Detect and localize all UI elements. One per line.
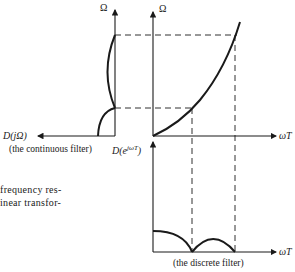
left-x-axis-label: D(jΩ) xyxy=(3,131,27,141)
bottom-x-axis-label: ωT xyxy=(279,247,292,257)
left-y-axis-label: Ω xyxy=(100,3,107,13)
bottom-y-axis-label-sup: jωT xyxy=(127,144,138,152)
bilinear-warping-curve xyxy=(153,22,240,136)
continuous-response-lower xyxy=(98,108,115,136)
bottom-y-axis-label-base: D(e xyxy=(112,145,127,156)
middle-y-axis-label: Ω xyxy=(159,4,166,14)
bottom-y-axis-label-close: ) xyxy=(138,145,141,156)
diagram-canvas xyxy=(0,0,295,272)
discrete-response-side-lobe xyxy=(192,239,235,252)
bottom-y-axis-label: D(ejωT) xyxy=(112,145,141,156)
left-panel xyxy=(38,10,115,136)
discrete-response-main-lobe xyxy=(153,231,192,252)
continuous-response-upper xyxy=(108,35,116,108)
middle-panel xyxy=(153,12,276,136)
continuous-filter-caption: (the continuous filter) xyxy=(9,145,92,155)
discrete-filter-caption: (the discrete filter) xyxy=(173,259,244,269)
body-text-line-2: inear transfor- xyxy=(0,196,61,209)
middle-x-axis-label: ωT xyxy=(279,131,292,141)
bottom-panel xyxy=(153,142,276,252)
body-text-line-1: frequency res- xyxy=(0,183,62,196)
